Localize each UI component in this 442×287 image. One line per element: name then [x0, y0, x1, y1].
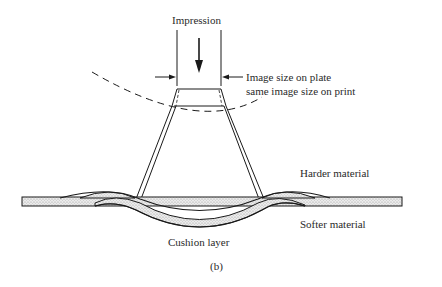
- harder-material-label: Harder material: [300, 167, 369, 179]
- image-size-label-line1: Image size on plate: [246, 71, 331, 83]
- harder-material-band: [22, 197, 402, 206]
- arrow-left-icon: [222, 75, 243, 80]
- softer-material-label: Softer material: [300, 218, 366, 230]
- figure-caption: (b): [210, 260, 223, 272]
- diagram-canvas: Impression Image size on plate same imag…: [0, 0, 442, 287]
- cushion-layer-label: Cushion layer: [168, 236, 229, 248]
- arrow-down-icon: [195, 38, 203, 73]
- impression-label: Impression: [172, 14, 221, 26]
- arrow-right-icon: [155, 75, 176, 80]
- image-size-label-line2: same image size on print: [246, 85, 355, 97]
